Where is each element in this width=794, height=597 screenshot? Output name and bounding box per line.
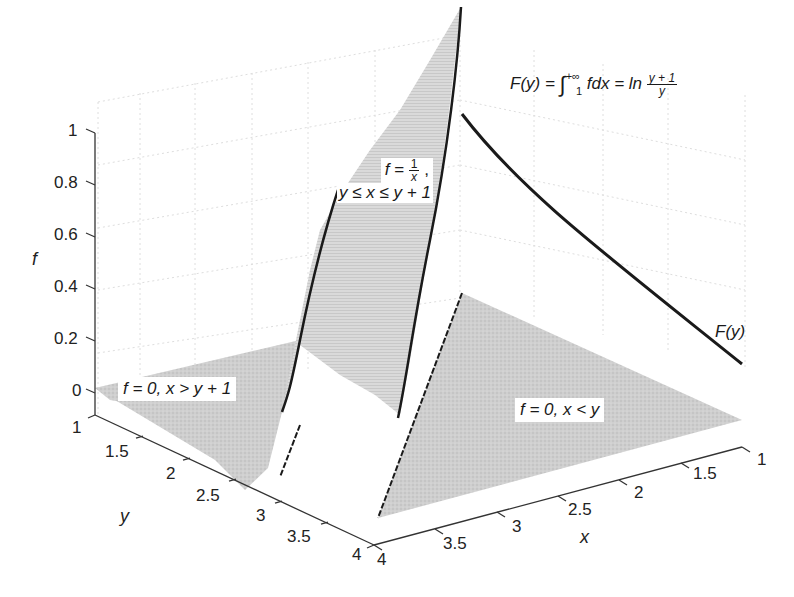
- z-axis: [86, 129, 95, 415]
- annotation-band-line2: y ≤ x ≤ y + 1: [337, 183, 433, 203]
- z-tick-labels: 1 0.8 0.6 0.4 0.2 0: [54, 121, 81, 400]
- svg-text:3: 3: [256, 506, 265, 525]
- svg-text:0: 0: [72, 381, 81, 400]
- svg-text:3.5: 3.5: [287, 527, 311, 546]
- svg-text:3: 3: [512, 517, 521, 536]
- annotation-band-line1: f = 1x ,: [381, 158, 433, 183]
- annotation-region-right: f = 0, x < y: [515, 398, 604, 422]
- annotation-band: f = 1x , y ≤ x ≤ y + 1: [377, 158, 433, 203]
- svg-text:1: 1: [72, 418, 81, 437]
- svg-text:2.5: 2.5: [196, 486, 220, 505]
- formula-F-y: F(y) = ∫+∞1 fdx = ln y + 1y: [510, 70, 677, 98]
- svg-text:1.5: 1.5: [105, 442, 129, 461]
- y-axis-label: y: [118, 506, 130, 526]
- svg-text:1: 1: [757, 450, 766, 469]
- svg-text:0.6: 0.6: [54, 225, 78, 244]
- x-axis-label: x: [579, 527, 590, 547]
- svg-text:2: 2: [166, 464, 175, 483]
- z-axis-label: f: [32, 249, 39, 269]
- curve-label-F-y: F(y): [715, 322, 745, 342]
- svg-text:2.5: 2.5: [568, 500, 592, 519]
- region-x-greater-y-plus-1: [95, 340, 300, 490]
- svg-text:1.5: 1.5: [693, 464, 717, 483]
- floor-trace-left: [280, 425, 300, 477]
- svg-text:4: 4: [352, 545, 361, 564]
- svg-text:3.5: 3.5: [443, 534, 467, 553]
- svg-text:4: 4: [377, 550, 386, 569]
- annotation-region-left: f = 0, x > y + 1: [118, 377, 236, 401]
- region-one-over-x-band: [282, 7, 461, 415]
- svg-text:0.4: 0.4: [54, 277, 78, 296]
- svg-text:1: 1: [68, 121, 77, 140]
- svg-text:2: 2: [634, 483, 643, 502]
- svg-text:0.8: 0.8: [54, 173, 78, 192]
- svg-text:0.2: 0.2: [54, 329, 78, 348]
